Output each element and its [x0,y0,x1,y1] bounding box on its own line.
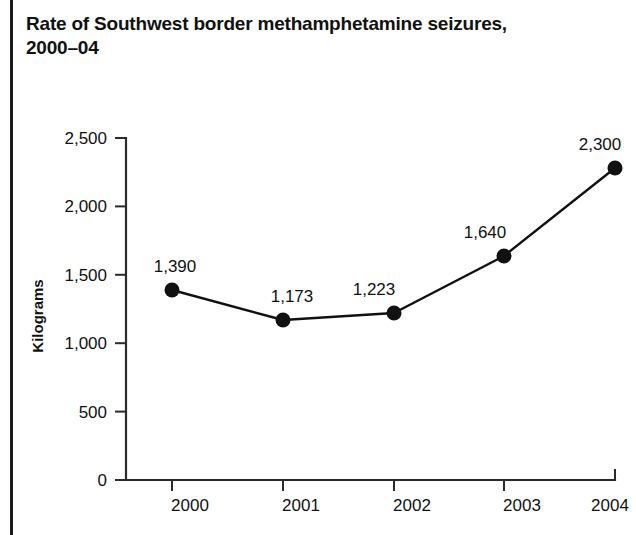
x-axis-tick-labels: 2000 2001 2002 2003 2004 [171,496,629,515]
x-tick-label: 2001 [282,496,320,515]
data-point[interactable] [276,313,291,328]
y-tick-label: 2,000 [64,197,107,216]
data-point[interactable] [497,249,512,264]
data-value-label: 1,640 [464,223,507,242]
y-axis-tick-labels: 2,500 2,000 1,500 1,000 500 0 [64,129,107,490]
chart-svg: 2,500 2,000 1,500 1,000 500 0 Kilograms … [0,0,636,535]
y-tick-label: 1,500 [64,266,107,285]
y-tick-label: 0 [98,471,107,490]
data-point[interactable] [165,283,180,298]
data-point[interactable] [608,161,623,176]
x-tick-label: 2004 [591,496,629,515]
data-value-label: 1,390 [154,257,197,276]
y-tick-label: 500 [79,403,107,422]
data-value-labels: 1,390 1,173 1,223 1,640 2,300 [154,135,622,306]
data-value-label: 1,173 [271,287,314,306]
data-point[interactable] [387,306,402,321]
line-chart: 2,500 2,000 1,500 1,000 500 0 Kilograms … [0,0,636,535]
y-axis-ticks [115,138,126,480]
y-axis-title: Kilograms [29,279,46,352]
data-value-label: 2,300 [579,135,622,154]
x-tick-label: 2002 [393,496,431,515]
data-markers [165,161,623,328]
data-value-label: 1,223 [353,280,396,299]
y-tick-label: 1,000 [64,334,107,353]
x-tick-label: 2003 [503,496,541,515]
y-tick-label: 2,500 [64,129,107,148]
x-tick-label: 2000 [171,496,209,515]
